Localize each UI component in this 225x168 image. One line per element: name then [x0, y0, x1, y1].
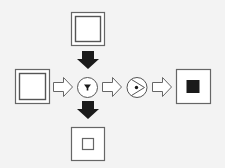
filter-junction — [78, 78, 98, 98]
right-output-box — [177, 70, 211, 104]
right-arrow-icon — [153, 78, 172, 97]
left-source-box — [16, 70, 50, 104]
filled-square-icon — [187, 80, 200, 93]
right-arrow-icon — [54, 78, 73, 97]
view-junction — [127, 78, 147, 98]
top-source-box — [72, 13, 105, 46]
flow-diagram — [0, 0, 225, 168]
hollow-square-icon — [83, 139, 94, 150]
right-arrow-icon — [103, 78, 122, 97]
down-arrow-icon — [77, 101, 99, 119]
down-arrow-icon — [77, 51, 99, 69]
bottom-output-box — [72, 128, 105, 161]
